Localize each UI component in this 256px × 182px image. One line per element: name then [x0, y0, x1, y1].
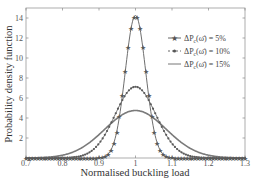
- dot-marker-icon: [137, 86, 139, 88]
- dot-marker-icon: [141, 89, 143, 91]
- dot-marker-icon: [180, 151, 182, 153]
- y-tick-label: 14: [15, 14, 23, 23]
- dot-marker-icon: [172, 143, 174, 145]
- y-tick-label: 12: [15, 34, 23, 43]
- dot-marker-icon: [158, 121, 160, 123]
- star-marker-icon: ★: [122, 68, 128, 76]
- star-marker-icon: ★: [134, 14, 140, 22]
- y-axis-label: Probability density function: [3, 25, 14, 143]
- dot-marker-icon: [93, 148, 95, 150]
- dot-marker-icon: [108, 126, 110, 128]
- dot-marker-icon: [178, 150, 180, 152]
- dot-marker-icon: [113, 117, 115, 119]
- dot-marker-icon: [132, 86, 134, 88]
- y-tick-label: 4: [19, 114, 23, 123]
- dot-marker-icon: [110, 121, 112, 123]
- legend-item-5pct: ★ ΔPc(ω̄) = 5%: [168, 34, 226, 44]
- y-tick-label: 8: [19, 74, 23, 83]
- star-marker-icon: ★: [114, 129, 120, 137]
- dot-marker-icon: [165, 134, 167, 136]
- dot-marker-icon: [128, 89, 130, 91]
- dot-marker-icon: [88, 151, 90, 153]
- pdf-chart: 0.70.80.911.11.21.3 2468101214 ★★★★★★★★★…: [0, 0, 256, 182]
- dot-marker-icon: [126, 92, 128, 94]
- star-marker-icon: ★: [149, 113, 155, 121]
- star-marker-icon: ★: [119, 92, 125, 100]
- star-marker-icon: ★: [146, 92, 152, 100]
- star-marker-icon: ★: [242, 155, 248, 163]
- legend-label: ΔPc(ω̄) = 10%: [184, 47, 230, 57]
- dot-marker-icon: [102, 137, 104, 139]
- star-marker-icon: ★: [140, 44, 146, 52]
- star-marker-icon: ★: [116, 113, 122, 121]
- dot-marker-icon: [152, 108, 154, 110]
- dot-marker-icon: [163, 130, 165, 132]
- dot-marker-icon: [104, 134, 106, 136]
- dot-marker-icon: [169, 141, 171, 143]
- dot-marker-icon: [174, 146, 176, 148]
- dot-marker-icon: [117, 108, 119, 110]
- dot-marker-icon: [106, 130, 108, 132]
- star-marker-icon: ★: [143, 68, 149, 76]
- y-tick-labels: 2468101214: [15, 14, 23, 143]
- dot-marker-icon: [130, 87, 132, 89]
- star-marker-icon: ★: [111, 140, 117, 148]
- legend-label: ΔPc(ω̄) = 5%: [184, 34, 226, 44]
- dot-marker-icon: [134, 86, 136, 88]
- dot-marker-icon: [167, 137, 169, 139]
- legend-label: ΔPc(ω̄) = 15%: [184, 60, 230, 70]
- x-axis-label: Normalised buckling load: [80, 167, 190, 178]
- dot-marker-icon: [173, 49, 176, 52]
- plot-frame: [26, 8, 245, 158]
- dot-marker-icon: [97, 143, 99, 145]
- dot-marker-icon: [156, 117, 158, 119]
- dot-marker-icon: [161, 126, 163, 128]
- star-marker-icon: ★: [108, 147, 114, 155]
- dot-marker-icon: [99, 141, 101, 143]
- y-tick-label: 2: [19, 134, 23, 143]
- star-marker-icon: ★: [137, 25, 143, 33]
- star-marker-icon: ★: [128, 25, 134, 33]
- star-marker-icon: ★: [171, 34, 178, 43]
- dot-marker-icon: [176, 148, 178, 150]
- dot-marker-icon: [91, 150, 93, 152]
- dot-marker-icon: [95, 146, 97, 148]
- star-marker-icon: ★: [125, 44, 131, 52]
- dot-marker-icon: [139, 87, 141, 89]
- star-marker-icon: ★: [151, 129, 157, 137]
- y-tick-label: 6: [19, 94, 23, 103]
- y-tick-label: 10: [15, 54, 23, 63]
